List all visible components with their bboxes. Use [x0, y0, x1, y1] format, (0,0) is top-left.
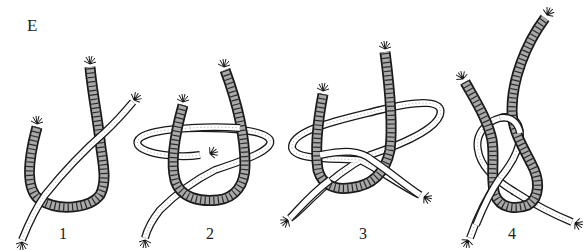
step-1-illustration [16, 56, 144, 250]
step-label-1: 1 [59, 226, 67, 242]
step-2-illustration [137, 59, 270, 248]
light-rope [137, 128, 270, 238]
step-3-illustration [278, 41, 441, 230]
dark-rope [30, 67, 105, 207]
step-label-3: 3 [359, 226, 367, 242]
step-label-2: 2 [206, 226, 214, 242]
step-label-4: 4 [508, 226, 516, 242]
dark-rope [465, 18, 545, 208]
dark-rope [173, 70, 245, 200]
knot-diagram [0, 0, 588, 250]
step-4-illustration [454, 5, 585, 249]
